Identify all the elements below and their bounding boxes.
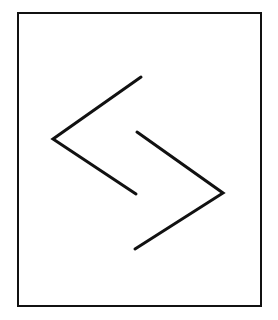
left-chevron-shape — [53, 77, 141, 194]
frame-rectangle — [18, 13, 261, 306]
right-chevron-shape — [135, 132, 223, 249]
diagram-canvas — [0, 0, 278, 320]
